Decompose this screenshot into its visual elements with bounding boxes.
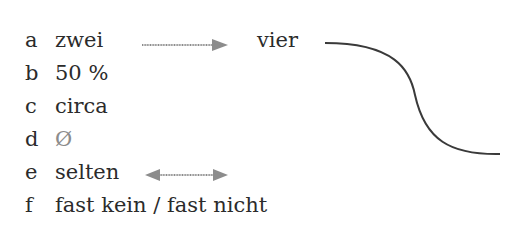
right-arrow-icon <box>142 39 228 51</box>
s-curve-line <box>325 43 500 154</box>
diagram-overlay <box>0 0 505 242</box>
double-arrow-icon <box>145 169 228 181</box>
